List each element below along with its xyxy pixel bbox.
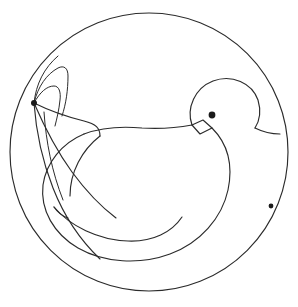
circle-edge-marker — [269, 204, 274, 209]
tail-feather-outer — [34, 56, 58, 103]
outer-circle — [10, 13, 288, 291]
bird-back-upper — [255, 128, 280, 134]
bird-beak — [192, 120, 212, 134]
tail-underside-upper — [34, 103, 100, 136]
bird-eye — [209, 112, 216, 119]
tail-underside-inner — [44, 112, 63, 200]
artboard: Bird in circle line drawing — [0, 0, 298, 307]
tail-feather-middle — [34, 67, 68, 116]
bird-wing-curve — [54, 207, 182, 241]
bird-breast-arc — [70, 136, 100, 196]
tail-convergence-point — [31, 100, 37, 106]
bird-in-circle-illustration — [0, 0, 298, 307]
tail-underside-lower — [34, 103, 116, 218]
